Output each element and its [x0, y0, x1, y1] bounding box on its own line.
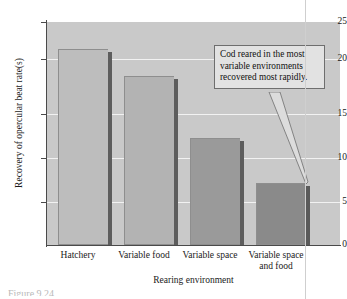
- bar-variable-space: [190, 138, 244, 245]
- y-axis-line: [46, 20, 47, 247]
- annotation-callout: Cod reared in the most variable environm…: [214, 45, 325, 89]
- bar-variable-food: [124, 76, 178, 245]
- bar-face: [256, 183, 306, 245]
- y-tick-mark-10: [41, 158, 46, 159]
- bar-face: [124, 76, 174, 245]
- x-tick-label-line1: Variable space: [229, 250, 323, 261]
- bar-side-shadow: [108, 52, 112, 245]
- bar-face: [190, 138, 240, 245]
- x-axis-title: Rearing environment: [47, 275, 340, 285]
- scan-artifact-line: [305, 0, 306, 299]
- y-tick-mark-15: [41, 114, 46, 115]
- y-tick-mark-5: [41, 202, 46, 203]
- x-axis-line: [46, 245, 341, 246]
- bar-side-shadow: [240, 141, 244, 245]
- figure-bar-chart: 25 20 15 10 5 0 Recovery of opercular be…: [0, 0, 347, 299]
- bar-face: [58, 49, 108, 245]
- y-axis-title: Recovery of opercular beat rate(s): [14, 33, 24, 213]
- y-tick-label-10: 10: [313, 153, 347, 163]
- y-tick-label-0: 0: [313, 240, 347, 250]
- bar-variable-space-and-food: [256, 183, 310, 245]
- figure-caption-clipped: Figure 9.24: [8, 288, 158, 296]
- y-tick-mark-25: [41, 22, 46, 23]
- x-tick-label-line2: and food: [229, 261, 323, 272]
- y-tick-label-5: 5: [313, 197, 347, 207]
- y-tick-mark-20: [41, 59, 46, 60]
- x-tick-label-variable-space-and-food: Variable space and food: [229, 250, 323, 272]
- y-tick-label-25: 25: [313, 17, 347, 27]
- bar-side-shadow: [306, 186, 310, 245]
- bar-hatchery: [58, 49, 112, 245]
- y-tick-label-15: 15: [313, 109, 347, 119]
- bar-side-shadow: [174, 79, 178, 245]
